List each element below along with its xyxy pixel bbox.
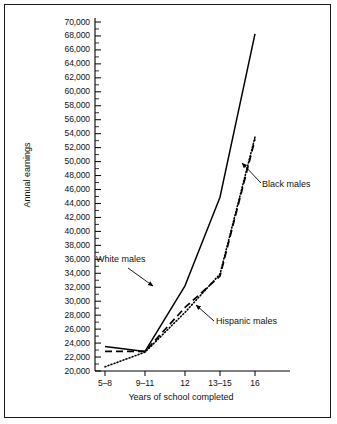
y-axis-tick-label: 36,000 xyxy=(28,255,90,264)
annotation-white-males: White males xyxy=(96,255,146,264)
y-axis-tick-label: 40,000 xyxy=(28,227,90,236)
y-axis-tick-label: 68,000 xyxy=(28,31,90,40)
y-axis-tick-label: 24,000 xyxy=(28,339,90,348)
series-line-hispanic-males xyxy=(105,137,255,367)
y-axis-tick-label: 20,000 xyxy=(28,367,90,376)
annotation-leader-white-males xyxy=(128,268,153,286)
x-axis-title: Years of school completed xyxy=(96,392,266,402)
line-chart: 20,00022,00024,00026,00028,00030,00032,0… xyxy=(0,0,337,424)
y-axis-title: Annual earnings xyxy=(22,125,32,225)
x-axis-tick-label: 16 xyxy=(230,379,280,388)
y-axis-tick-label: 66,000 xyxy=(28,45,90,54)
y-axis-tick-label: 28,000 xyxy=(28,311,90,320)
y-axis-tick-label: 34,000 xyxy=(28,269,90,278)
y-axis-tick-label: 64,000 xyxy=(28,59,90,68)
annotation-black-males: Black males xyxy=(262,180,311,189)
series-line-white-males xyxy=(105,34,255,352)
y-axis-tick-label: 46,000 xyxy=(28,185,90,194)
y-axis-tick-label: 48,000 xyxy=(28,171,90,180)
y-axis-tick-label: 52,000 xyxy=(28,143,90,152)
annotation-hispanic-males: Hispanic males xyxy=(216,317,277,326)
y-axis-tick-label: 58,000 xyxy=(28,101,90,110)
y-axis-tick-label: 60,000 xyxy=(28,87,90,96)
y-axis-tick-label: 56,000 xyxy=(28,115,90,124)
y-axis-tick-label: 50,000 xyxy=(28,157,90,166)
y-axis-tick-label: 62,000 xyxy=(28,73,90,82)
y-axis-tick-label: 70,000 xyxy=(28,18,90,27)
annotation-leader-hispanic-males xyxy=(196,305,214,321)
y-axis-tick-label: 32,000 xyxy=(28,283,90,292)
y-axis-tick-label: 38,000 xyxy=(28,241,90,250)
y-axis-tick-label: 30,000 xyxy=(28,297,90,306)
y-axis-tick-label: 26,000 xyxy=(28,325,90,334)
y-axis-tick-label: 44,000 xyxy=(28,199,90,208)
y-axis-tick-label: 22,000 xyxy=(28,353,90,362)
y-axis-tick-label: 54,000 xyxy=(28,129,90,138)
y-axis-tick-label: 42,000 xyxy=(28,213,90,222)
